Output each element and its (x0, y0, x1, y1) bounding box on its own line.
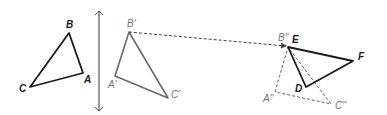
transformation-diagram: B A C B' A' C' B'' A'' C'' E F D (0, 0, 387, 115)
triangle-a-double-prime (275, 47, 331, 104)
label-e: E (292, 35, 299, 45)
label-a-prime: A' (108, 80, 117, 90)
label-a: A (84, 75, 91, 85)
diagram-canvas (0, 0, 387, 115)
label-b-prime: B' (127, 19, 136, 29)
translation-arrow (129, 32, 286, 46)
triangle-abc (30, 33, 83, 87)
label-c: C (19, 84, 26, 94)
label-c-double-prime: C'' (335, 101, 346, 111)
label-a-double-prime: A'' (263, 94, 274, 104)
label-b-double-prime: B'' (278, 33, 289, 43)
triangle-a-prime-b-prime-c-prime (115, 32, 168, 98)
label-d: D (295, 84, 302, 94)
label-b: B (66, 20, 73, 30)
label-c-prime: C' (171, 90, 180, 100)
label-f: F (358, 52, 364, 62)
triangle-def (288, 47, 353, 87)
